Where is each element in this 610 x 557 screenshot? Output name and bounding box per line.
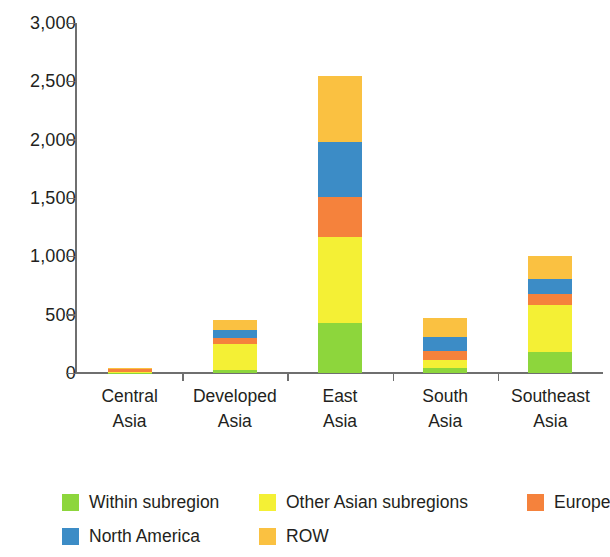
legend-swatch-icon xyxy=(527,494,544,511)
bar-segment[interactable] xyxy=(318,142,362,197)
x-axis-category-label: EastAsia xyxy=(287,384,392,434)
legend-swatch-icon xyxy=(62,528,79,545)
category-label-line2: Asia xyxy=(287,409,392,434)
y-axis-tick: 2,500 xyxy=(0,72,76,90)
legend-label: ROW xyxy=(286,526,329,546)
bar-segment[interactable] xyxy=(318,237,362,323)
x-axis-category-label: SoutheastAsia xyxy=(498,384,603,434)
bar-group[interactable] xyxy=(213,23,257,373)
y-axis-tick-mark xyxy=(66,23,76,25)
category-label-line1: Central xyxy=(101,386,157,406)
category-label-line2: Asia xyxy=(393,409,498,434)
legend-item[interactable]: Europe xyxy=(527,492,610,512)
bar-segment[interactable] xyxy=(213,344,257,369)
bar-group[interactable] xyxy=(108,23,152,373)
bar-segment[interactable] xyxy=(528,352,572,373)
x-axis-tick-mark xyxy=(498,373,500,381)
x-axis-category-label: DevelopedAsia xyxy=(182,384,287,434)
bar-segment[interactable] xyxy=(423,318,467,337)
y-axis-tick-mark xyxy=(66,256,76,258)
bar-stack xyxy=(318,76,362,373)
legend-item[interactable]: Other Asian subregions xyxy=(259,492,468,512)
bar-segment[interactable] xyxy=(528,294,572,305)
category-label-line1: Developed xyxy=(193,386,277,406)
y-axis-tick: 1,000 xyxy=(0,247,76,265)
bar-segment[interactable] xyxy=(423,368,467,373)
bar-group[interactable] xyxy=(423,23,467,373)
bar-group[interactable] xyxy=(318,23,362,373)
y-axis-tick-mark xyxy=(66,198,76,200)
legend-item[interactable]: Within subregion xyxy=(62,492,219,512)
bar-segment[interactable] xyxy=(423,360,467,368)
chart-legend: Within subregionOther Asian subregionsEu… xyxy=(62,492,603,554)
bar-segment[interactable] xyxy=(318,197,362,237)
x-axis-tick-mark xyxy=(182,373,184,381)
bar-segment[interactable] xyxy=(423,337,467,352)
category-label-line1: Southeast xyxy=(511,386,590,406)
legend-swatch-icon xyxy=(259,528,276,545)
legend-item[interactable]: ROW xyxy=(259,526,329,546)
category-label-line2: Asia xyxy=(182,409,287,434)
bar-segment[interactable] xyxy=(318,323,362,373)
bar-stack xyxy=(213,320,257,373)
bar-stack xyxy=(423,318,467,373)
bar-segment[interactable] xyxy=(213,330,257,338)
x-axis-tick-mark xyxy=(393,373,395,381)
bar-segment[interactable] xyxy=(528,305,572,352)
category-label-line2: Asia xyxy=(77,409,182,434)
legend-label: Other Asian subregions xyxy=(286,492,468,512)
x-axis-category-labels: CentralAsiaDevelopedAsiaEastAsiaSouthAsi… xyxy=(77,384,603,440)
legend-swatch-icon xyxy=(259,494,276,511)
y-axis-tick: 2,000 xyxy=(0,131,76,149)
bar-segment[interactable] xyxy=(213,320,257,330)
x-axis-tick-mark xyxy=(287,373,289,381)
legend-item[interactable]: North America xyxy=(62,526,200,546)
x-axis-category-label: SouthAsia xyxy=(393,384,498,434)
y-axis-tick-mark xyxy=(66,373,76,375)
y-axis-tick: 500 xyxy=(0,306,76,324)
category-label-line1: East xyxy=(322,386,357,406)
y-axis-tick: 3,000 xyxy=(0,14,76,32)
y-axis-tick-mark xyxy=(66,81,76,83)
y-axis-tick-mark xyxy=(66,314,76,316)
bars-layer xyxy=(77,23,603,373)
y-axis-tick: 1,500 xyxy=(0,189,76,207)
y-axis-tick: 0 xyxy=(0,364,76,382)
bar-segment[interactable] xyxy=(318,76,362,142)
legend-swatch-icon xyxy=(62,494,79,511)
bar-segment[interactable] xyxy=(528,279,572,295)
bar-stack xyxy=(108,368,152,373)
y-axis-tick-mark xyxy=(66,139,76,141)
category-label-line2: Asia xyxy=(498,409,603,434)
legend-label: North America xyxy=(89,526,200,546)
bar-group[interactable] xyxy=(528,23,572,373)
plot-area: 3,0002,5002,0001,5001,0005000 CentralAsi… xyxy=(0,0,603,380)
bar-segment[interactable] xyxy=(423,351,467,360)
legend-label: Europe xyxy=(554,492,610,512)
bar-stack xyxy=(528,256,572,373)
bar-segment[interactable] xyxy=(213,370,257,374)
category-label-line1: South xyxy=(422,386,468,406)
x-axis-category-label: CentralAsia xyxy=(77,384,182,434)
legend-label: Within subregion xyxy=(89,492,219,512)
bar-segment[interactable] xyxy=(528,256,572,279)
